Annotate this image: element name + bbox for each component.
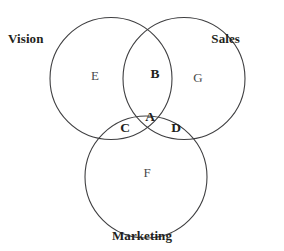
region-label-b: B bbox=[150, 66, 159, 82]
set-label-sales: Sales bbox=[211, 31, 240, 47]
region-label-d: D bbox=[171, 120, 181, 136]
set-label-vision: Vision bbox=[8, 31, 44, 47]
region-label-c: C bbox=[120, 120, 130, 136]
venn-diagram: Vision Sales Marketing A B C D E F G bbox=[0, 0, 284, 251]
set-label-marketing: Marketing bbox=[112, 228, 172, 244]
region-label-g: G bbox=[193, 70, 202, 86]
region-label-a: A bbox=[145, 109, 155, 125]
region-label-f: F bbox=[143, 165, 150, 181]
region-label-e: E bbox=[91, 68, 99, 84]
